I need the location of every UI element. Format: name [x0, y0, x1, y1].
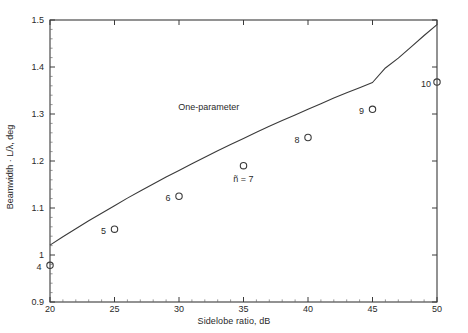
y-tick-label: 1 [18, 250, 44, 260]
x-axis-title: Sidelobe ratio, dB [0, 316, 468, 326]
axes-frame [50, 20, 437, 302]
chart-figure: Beamwidth · L/λ, deg Sidelobe ratio, dB … [0, 0, 468, 333]
y-tick-label: 0.9 [18, 297, 44, 307]
point-label: ñ = 7 [233, 174, 253, 184]
x-tick-label: 35 [238, 304, 248, 314]
x-tick-label: 25 [109, 304, 119, 314]
y-tick-label: 1.2 [18, 156, 44, 166]
axis-ticks [50, 20, 437, 302]
x-tick-label: 20 [45, 304, 55, 314]
y-tick-label: 1.4 [18, 62, 44, 72]
point-label: 5 [101, 226, 106, 236]
point-label: 9 [359, 106, 364, 116]
x-tick-label: 50 [432, 304, 442, 314]
x-tick-label: 30 [174, 304, 184, 314]
point-label: 6 [165, 193, 170, 203]
point-label: 8 [294, 135, 299, 145]
y-axis-title: Beamwidth · L/λ, deg [5, 124, 15, 209]
y-tick-label: 1.5 [18, 15, 44, 25]
one-parameter-curve [50, 25, 437, 245]
x-tick-label: 45 [367, 304, 377, 314]
plot-area [0, 0, 468, 333]
y-axis-title-wrap: Beamwidth · L/λ, deg [0, 0, 20, 333]
point-label: 4 [36, 262, 41, 272]
curve-label: One-parameter [178, 102, 239, 112]
x-tick-label: 40 [303, 304, 313, 314]
y-tick-label: 1.3 [18, 109, 44, 119]
y-tick-label: 1.1 [18, 203, 44, 213]
point-label: 10 [421, 79, 431, 89]
